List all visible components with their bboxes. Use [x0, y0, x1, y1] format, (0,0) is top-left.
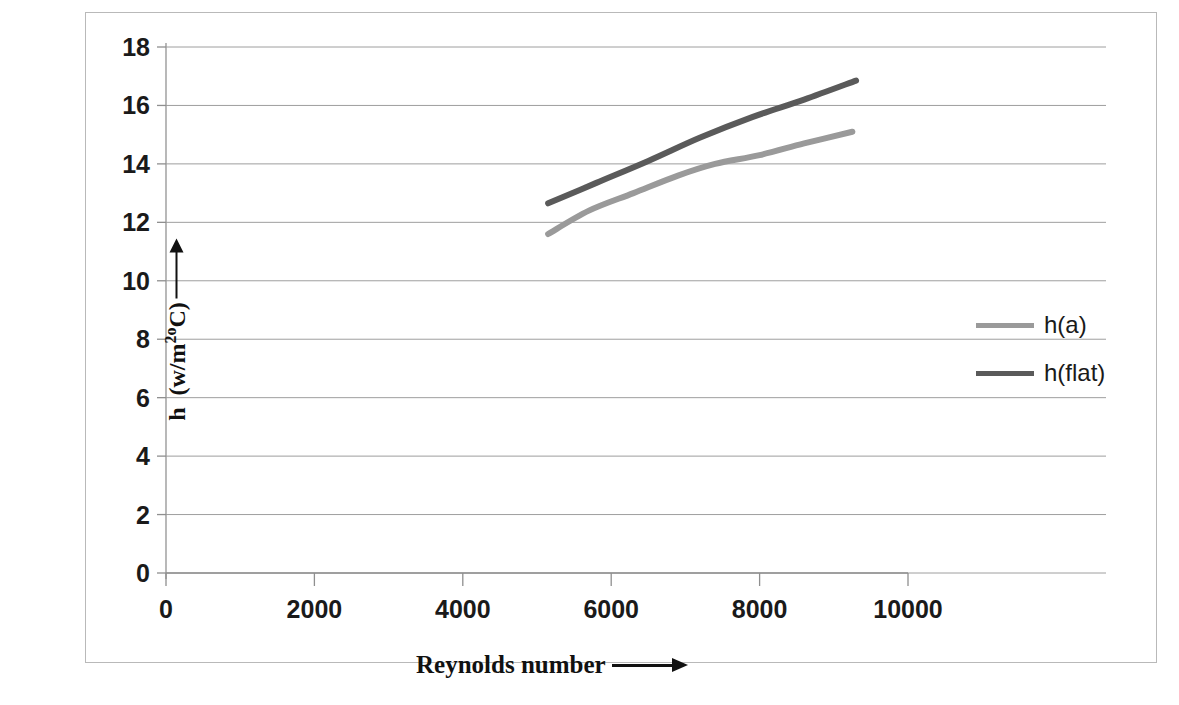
y-axis-title-symbol: h — [164, 407, 190, 420]
x-axis-tick-label: 8000 — [690, 595, 830, 624]
gridlines — [166, 47, 1106, 573]
y-axis-title-unit-superscript: 2o — [162, 328, 179, 344]
arrow-right-icon — [612, 657, 690, 673]
legend-label: h(a) — [1044, 311, 1087, 339]
arrow-up-icon — [168, 234, 184, 298]
x-axis-ticks — [166, 573, 908, 586]
x-axis-tick-label: 2000 — [244, 595, 384, 624]
y-axis-title: h (w/m2oC) — [162, 218, 191, 438]
legend-item-hflat[interactable]: h(flat) — [976, 349, 1156, 397]
chart-frame: 024681012141618 0200040006000800010000 h… — [85, 12, 1157, 663]
y-axis-tick-label: 6 — [90, 383, 150, 412]
y-axis-title-text: h (w/m2oC) — [162, 302, 191, 421]
x-axis-tick-label: 0 — [96, 595, 236, 624]
y-axis-tick-label: 4 — [90, 442, 150, 471]
chart-legend: h(a)h(flat) — [976, 301, 1156, 397]
y-axis-tick-label: 8 — [90, 325, 150, 354]
x-axis-title-text: Reynolds number — [416, 651, 606, 679]
x-axis-tick-label: 10000 — [838, 595, 978, 624]
legend-label: h(flat) — [1044, 359, 1105, 387]
x-axis-title: Reynolds number — [416, 651, 690, 679]
y-axis-tick-label: 0 — [90, 559, 150, 588]
y-axis-tick-label: 12 — [90, 208, 150, 237]
x-axis-tick-label: 4000 — [393, 595, 533, 624]
x-axis-tick-label: 6000 — [541, 595, 681, 624]
y-axis-tick-label: 14 — [90, 149, 150, 178]
legend-item-ha[interactable]: h(a) — [976, 301, 1156, 349]
y-axis-title-unit-close: C) — [164, 302, 190, 327]
axis-lines — [166, 43, 908, 579]
y-axis-tick-label: 2 — [90, 500, 150, 529]
y-axis-tick-label: 18 — [90, 33, 150, 62]
legend-swatch-icon — [976, 371, 1034, 376]
data-series-group — [548, 81, 856, 234]
y-axis-tick-label: 10 — [90, 266, 150, 295]
y-axis-tick-label: 16 — [90, 91, 150, 120]
y-axis-title-unit-open: (w/m — [164, 344, 190, 396]
legend-swatch-icon — [976, 323, 1034, 328]
